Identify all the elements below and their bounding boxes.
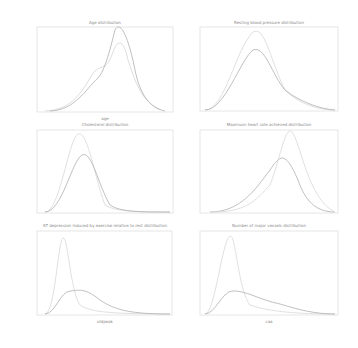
svg-text:Maximum heart rate achieved di: Maximum heart rate achieved distribution [227,122,312,127]
svg-text:ST depression induced by exerc: ST depression induced by exercise relati… [43,223,167,228]
plots-canvas: Age distribution age Resting blood press… [0,0,358,348]
svg-text:Resting blood pressure distrib: Resting blood pressure distribution [234,20,304,25]
svg-text:age: age [101,116,109,121]
chart-grid: Age distribution age Resting blood press… [0,0,358,348]
plot-caa: Number of major vessels distribution caa [200,223,338,324]
svg-text:caa: caa [265,319,273,324]
plot-thalachh: Maximum heart rate achieved distribution [200,122,338,213]
plot-trtbps: Resting blood pressure distribution [200,20,338,111]
plot-age: Age distribution age [37,20,173,121]
svg-text:Number of major vessels distri: Number of major vessels distribution [232,223,306,228]
svg-text:oldpeak: oldpeak [97,319,114,324]
plot-chol: Cholesterol distribution [37,122,173,213]
svg-text:Cholesterol distribution: Cholesterol distribution [82,122,129,127]
svg-text:Age distribution: Age distribution [89,20,121,25]
plot-oldpeak: ST depression induced by exercise relati… [37,223,172,324]
